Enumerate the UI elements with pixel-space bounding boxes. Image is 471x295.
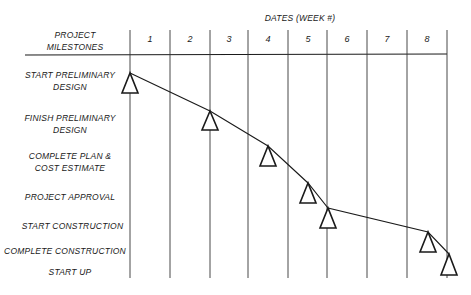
triangle-marker-icon: [320, 208, 336, 228]
milestones-column-header: PROJECT MILESTONES: [35, 29, 115, 53]
milestone-label: START UP: [20, 266, 120, 278]
milestone-label: START PRELIMINARY DESIGN: [20, 69, 120, 93]
week-grid-lines: [130, 30, 447, 278]
milestone-label: FINISH PRELIMINARY DESIGN: [20, 112, 120, 136]
week-label: 8: [417, 34, 437, 44]
header-line: PROJECT: [35, 29, 115, 41]
week-label: 5: [298, 34, 318, 44]
milestone-label-line: COMPLETE PLAN &: [20, 150, 120, 162]
milestone-label-line: FINISH PRELIMINARY: [20, 112, 120, 124]
milestone-label-line: DESIGN: [20, 81, 120, 93]
dates-header: DATES (WEEK #): [250, 12, 350, 24]
week-label: 6: [337, 34, 357, 44]
milestone-label-line: START PRELIMINARY: [20, 69, 120, 81]
triangle-marker-icon: [260, 146, 276, 166]
milestone-path-line: [130, 73, 449, 254]
week-label: 2: [180, 34, 200, 44]
milestone-label: START CONSTRUCTION: [20, 220, 125, 232]
milestone-label: COMPLETE PLAN & COST ESTIMATE: [20, 150, 120, 174]
week-label: 1: [140, 34, 160, 44]
header-line: MILESTONES: [35, 41, 115, 53]
triangle-marker-icon: [300, 183, 316, 203]
milestone-label-line: DESIGN: [20, 124, 120, 136]
milestone-label: COMPLETE CONSTRUCTION: [4, 245, 126, 257]
milestone-label: PROJECT APPROVAL: [20, 191, 120, 203]
week-label: 3: [219, 34, 239, 44]
header-divider: [25, 54, 447, 55]
triangle-marker-icon: [420, 232, 436, 252]
triangle-marker-icon: [441, 254, 457, 275]
week-label: 7: [377, 34, 397, 44]
week-label: 4: [258, 34, 278, 44]
milestone-label-line: COST ESTIMATE: [20, 162, 120, 174]
